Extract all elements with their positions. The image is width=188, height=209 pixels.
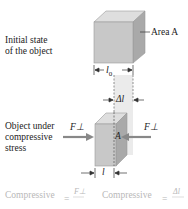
stress-word: Compressive xyxy=(5,190,55,201)
stress-numerator: F⊥ xyxy=(74,186,86,197)
initial-state-label-line1: Initial state xyxy=(5,35,47,46)
area-label: Area A xyxy=(151,27,178,38)
compressed-block xyxy=(95,112,127,166)
stress-equals: = xyxy=(64,194,69,205)
delta-l-label: Δl xyxy=(116,94,124,105)
l0-label: l0 xyxy=(106,64,112,80)
compressed-label-line1: Object under xyxy=(5,121,54,132)
initial-cube xyxy=(94,11,145,63)
compressed-label-line2: compressive xyxy=(5,132,53,143)
area-label-text: Area A xyxy=(151,27,178,37)
initial-state-label-line2: of the object xyxy=(5,46,52,57)
block-area-label: A xyxy=(115,131,121,142)
force-left-label: F⊥ xyxy=(70,122,84,133)
compressed-label-line3: stress xyxy=(5,143,26,154)
force-arrow-left xyxy=(63,133,94,141)
force-right-label: F⊥ xyxy=(144,122,158,133)
l-label: l xyxy=(102,167,105,178)
strain-equals: = xyxy=(162,194,167,205)
strain-numerator: Δl xyxy=(173,186,180,197)
l0-dimension xyxy=(94,65,133,75)
strain-word: Compressive xyxy=(102,190,152,201)
